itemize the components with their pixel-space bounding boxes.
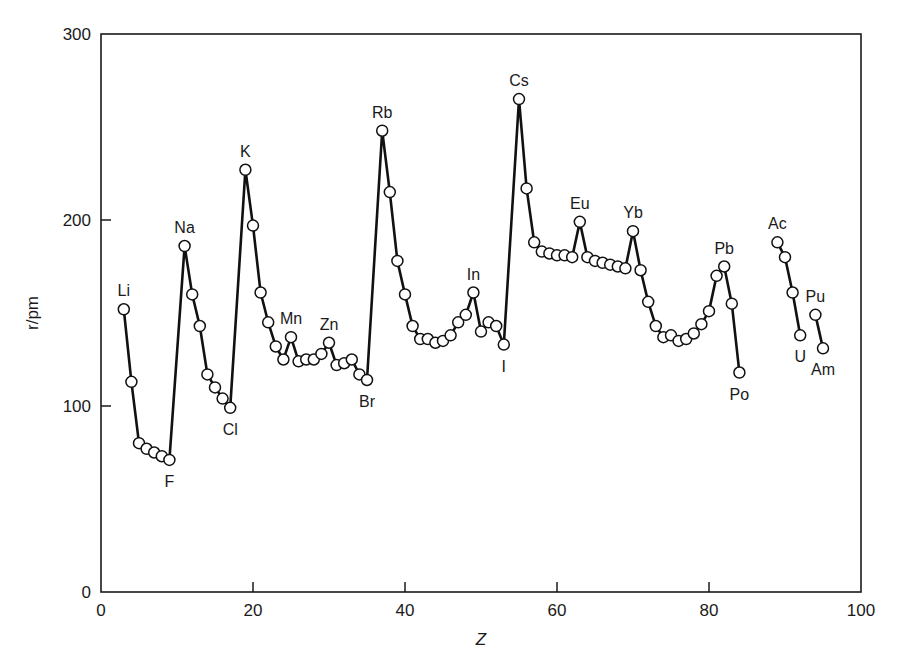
data-point <box>704 306 715 317</box>
element-label: Rb <box>372 104 393 121</box>
data-point <box>179 241 190 252</box>
axis-ticks <box>101 220 709 592</box>
data-point <box>521 183 532 194</box>
data-point <box>795 330 806 341</box>
element-label: Zn <box>320 316 339 333</box>
y-tick-label: 200 <box>63 211 91 230</box>
data-point <box>635 265 646 276</box>
plot-border <box>101 34 861 592</box>
data-point <box>574 216 585 227</box>
y-tick-label: 300 <box>63 25 91 44</box>
element-label: I <box>502 358 506 375</box>
element-label: Pu <box>806 288 826 305</box>
data-point <box>696 319 707 330</box>
series-line <box>124 99 740 460</box>
data-point <box>225 402 236 413</box>
data-point <box>248 220 259 231</box>
data-point <box>643 296 654 307</box>
data-point <box>286 332 297 343</box>
data-point <box>346 354 357 365</box>
data-point <box>628 226 639 237</box>
x-tick-label: 40 <box>396 601 415 620</box>
data-point <box>726 298 737 309</box>
element-label: F <box>165 473 175 490</box>
data-point <box>384 187 395 198</box>
data-point <box>400 289 411 300</box>
data-point <box>392 255 403 266</box>
data-point <box>719 261 730 272</box>
x-tick-label: 0 <box>96 601 105 620</box>
y-axis-title: r/pm <box>23 296 42 330</box>
x-tick-label: 100 <box>847 601 875 620</box>
data-point <box>529 237 540 248</box>
y-tick-label: 0 <box>82 583 91 602</box>
atomic-radius-chart: 0204060801000100200300 Z r/pm LiFNaClKMn… <box>0 0 897 664</box>
data-point <box>210 382 221 393</box>
element-label: Pb <box>714 240 734 257</box>
data-point <box>118 304 129 315</box>
data-point <box>270 341 281 352</box>
y-tick-label: 100 <box>63 397 91 416</box>
element-label: Cl <box>223 421 238 438</box>
axis-tick-labels: 0204060801000100200300 <box>63 25 876 620</box>
data-point <box>407 321 418 332</box>
data-point <box>460 309 471 320</box>
data-point <box>567 252 578 263</box>
data-point <box>194 321 205 332</box>
data-point <box>772 237 783 248</box>
data-point <box>217 393 228 404</box>
element-label: K <box>240 143 251 160</box>
element-label: Yb <box>623 204 643 221</box>
data-point <box>377 125 388 136</box>
element-label: Li <box>118 282 130 299</box>
element-label: Po <box>730 386 750 403</box>
data-point <box>780 252 791 263</box>
data-point <box>810 309 821 320</box>
element-label: Am <box>811 361 835 378</box>
x-tick-label: 60 <box>548 601 567 620</box>
element-label: In <box>467 266 480 283</box>
element-label: Ac <box>768 215 787 232</box>
data-point <box>263 317 274 328</box>
data-point <box>316 348 327 359</box>
data-point <box>126 376 137 387</box>
data-point <box>362 374 373 385</box>
x-tick-label: 20 <box>244 601 263 620</box>
data-point <box>734 367 745 378</box>
data-point <box>324 337 335 348</box>
data-point <box>491 321 502 332</box>
data-point <box>620 263 631 274</box>
data-point <box>818 343 829 354</box>
data-point <box>476 326 487 337</box>
data-point <box>187 289 198 300</box>
data-point <box>787 287 798 298</box>
data-point <box>514 94 525 105</box>
data-point <box>255 287 266 298</box>
data-point <box>445 330 456 341</box>
element-label: Eu <box>570 195 590 212</box>
data-point <box>468 287 479 298</box>
data-point <box>650 321 661 332</box>
element-label: U <box>794 348 806 365</box>
x-tick-label: 80 <box>700 601 719 620</box>
data-point <box>240 164 251 175</box>
data-point <box>202 369 213 380</box>
data-point <box>688 328 699 339</box>
data-point <box>278 354 289 365</box>
data-point <box>498 339 509 350</box>
element-label: Mn <box>280 310 302 327</box>
element-label: Cs <box>509 72 529 89</box>
element-label: Na <box>174 219 195 236</box>
data-point <box>164 454 175 465</box>
x-axis-title: Z <box>475 630 487 649</box>
plot-frame <box>101 34 861 592</box>
data-point <box>711 270 722 281</box>
element-label: Br <box>359 393 376 410</box>
